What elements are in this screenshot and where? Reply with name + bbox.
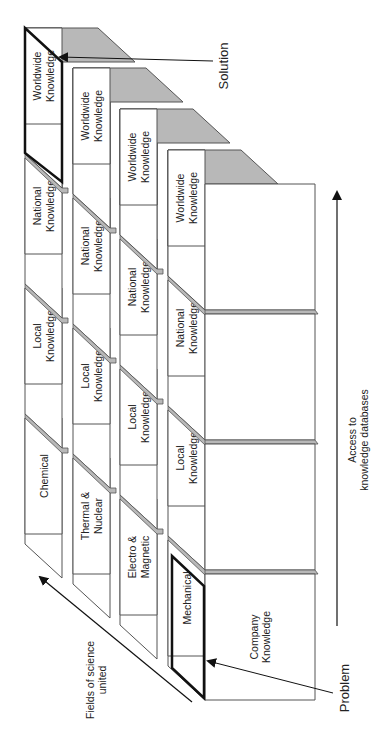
cell-label-line: Local: [31, 323, 43, 348]
cell-label: NationalKnowledge: [126, 261, 151, 313]
cell-label-line: Knowledge: [44, 310, 56, 362]
cell-label-line: National: [174, 309, 186, 348]
cell-label-line: National: [31, 187, 43, 226]
cell-label-line: Local: [79, 363, 91, 388]
fields-axis-label-line: Fields of science: [84, 641, 96, 719]
front-gap-bevel: [205, 440, 318, 444]
cell-label-line: Knowledge: [92, 220, 104, 272]
cell-label-line: Nuclear: [92, 497, 104, 534]
fields-axis-label-line: united: [96, 666, 108, 695]
cell-label-line: Knowledge: [139, 131, 151, 183]
front-gap-bevel: [205, 570, 318, 574]
front-gap-bevel: [205, 310, 318, 314]
company-knowledge-label-line: Knowledge: [260, 611, 272, 663]
cell-label-line: Thermal &: [79, 492, 91, 540]
access-axis-label-line: Access to: [346, 417, 358, 463]
fields-axis-label: Fields of scienceunited: [84, 641, 109, 719]
cell-label-line: National: [126, 268, 138, 307]
cell-label: NationalKnowledge: [31, 180, 56, 232]
solution-label-line: Solution: [216, 43, 231, 90]
cell-label-line: Knowledge: [187, 172, 199, 224]
cell-label-line: Worldwide: [126, 132, 138, 181]
company-knowledge-label-line: Company: [248, 614, 260, 660]
front-cube-side-face: [205, 184, 315, 310]
cell-label-line: Knowledge: [92, 350, 104, 402]
cell-label-line: Magnetic: [139, 536, 151, 579]
cell-label: WorldwideKnowledge: [126, 131, 151, 183]
cell-label: WorldwideKnowledge: [174, 172, 199, 224]
cell-label-line: Knowledge: [187, 432, 199, 484]
company-knowledge-label: CompanyKnowledge: [248, 611, 273, 663]
cell-label-line: Knowledge: [139, 391, 151, 443]
cell-label-line: Knowledge: [92, 90, 104, 142]
cell-label-line: National: [79, 227, 91, 266]
cell-label-line: Worldwide: [31, 51, 43, 100]
cell-label: Thermal &Nuclear: [79, 492, 104, 540]
knowledge-cube-diagram: ChemicalLocalKnowledgeNationalKnowledgeW…: [0, 0, 383, 753]
cell-label-line: Knowledge: [44, 50, 56, 102]
problem-label-line: Problem: [337, 664, 352, 712]
cell-label: Mechanical: [181, 571, 193, 624]
cell-label-line: Mechanical: [181, 571, 193, 624]
cell-label: Chemical: [38, 454, 50, 498]
access-axis-label-line: knowledge databases: [358, 389, 370, 491]
cell-label-line: Knowledge: [187, 302, 199, 354]
cell-label-line: Local: [126, 404, 138, 429]
cell-label: Electro &Magnetic: [126, 536, 151, 579]
cell-label: NationalKnowledge: [79, 220, 104, 272]
front-cube-side-face: [205, 444, 315, 570]
cell-label-line: Chemical: [38, 454, 50, 498]
cell-label-line: Knowledge: [44, 180, 56, 232]
cell-label-line: Worldwide: [174, 173, 186, 222]
cell-label-line: Electro &: [126, 536, 138, 579]
cell-label: WorldwideKnowledge: [31, 50, 56, 102]
cell-label-line: Worldwide: [79, 91, 91, 140]
cell-label-line: Local: [174, 445, 186, 470]
cell-label-line: Knowledge: [139, 261, 151, 313]
solution-label: Solution: [216, 43, 231, 90]
cell-label: NationalKnowledge: [174, 302, 199, 354]
problem-label: Problem: [337, 664, 352, 712]
cell-label: WorldwideKnowledge: [79, 90, 104, 142]
front-cube-side-face: [205, 314, 315, 440]
access-axis-label: Access toknowledge databases: [346, 389, 371, 491]
